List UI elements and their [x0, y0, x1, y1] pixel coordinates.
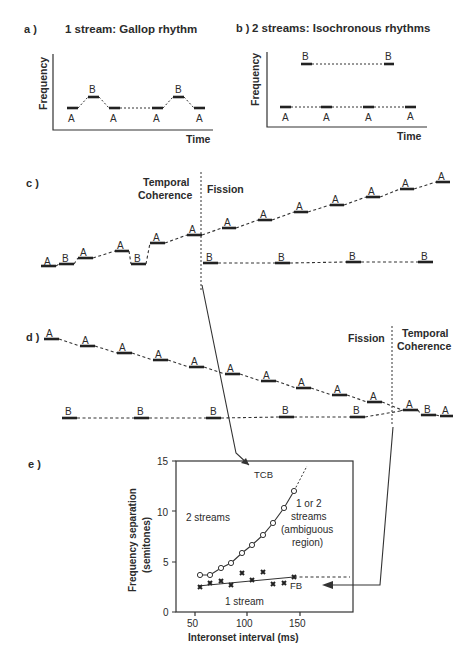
label-fb: FB: [290, 580, 302, 591]
tone-label: A: [189, 224, 196, 235]
xtick: 100: [236, 618, 253, 629]
label-ambiguous-4: region): [292, 537, 323, 548]
tone-label: A: [46, 328, 53, 339]
label-ambiguous-1: 1 or 2: [296, 498, 322, 509]
tone-label: A: [110, 113, 117, 124]
panel-a-letter: a ): [24, 23, 37, 35]
tone-label: B: [421, 251, 428, 262]
tone-label: B: [353, 405, 360, 416]
region-label-coherence: Coherence: [138, 189, 192, 201]
tone-label: A: [438, 171, 445, 182]
tone-label: A: [227, 363, 234, 374]
tcb-curve: [200, 491, 294, 575]
label-ambiguous-2: streams: [291, 511, 327, 522]
ytick: 15: [157, 456, 169, 467]
region-label-fission: Fission: [348, 332, 385, 344]
panel-c: c ) Temporal Coherence Fission A B A A B…: [26, 171, 450, 290]
panel-a-axes: [53, 54, 213, 130]
tone-label: A: [323, 112, 330, 123]
y-axis-label-2: (semitones): [141, 517, 152, 573]
tone-label: A: [44, 256, 51, 267]
tone-label: B: [302, 51, 309, 62]
tone-label: B: [349, 251, 356, 262]
panel-a: a ) 1 stream: Gallop rhythm Frequency Ti…: [24, 23, 213, 145]
tone-label: A: [365, 112, 372, 123]
tone-label: A: [196, 113, 203, 124]
ytick: 5: [163, 557, 169, 568]
tone-label: A: [332, 194, 339, 205]
panel-b-ylabel: Frequency: [249, 53, 261, 106]
tone-label: B: [89, 84, 96, 95]
tone-label: B: [62, 253, 69, 264]
tone-label: A: [263, 370, 270, 381]
region-label-fission: Fission: [207, 183, 244, 195]
tone-label: B: [137, 406, 144, 417]
tone-label: A: [282, 112, 289, 123]
tone-label: B: [206, 252, 213, 263]
tone-label: A: [406, 399, 413, 410]
tone-label: B: [210, 406, 217, 417]
tone-label: A: [334, 384, 341, 395]
label-two-streams: 2 streams: [186, 512, 230, 523]
tone-label: A: [296, 201, 303, 212]
panel-b-title: 2 streams: Isochronous rhythms: [252, 22, 430, 34]
panel-e: e ) 15 10 5 0 50 100 150 Interonset inte…: [28, 456, 353, 643]
tone-label: B: [282, 405, 289, 416]
tone-label: A: [82, 335, 89, 346]
tone-label: B: [175, 84, 182, 95]
panel-a-title: 1 stream: Gallop rhythm: [65, 23, 197, 35]
tone-label: A: [153, 113, 160, 124]
tone-label: A: [68, 113, 75, 124]
panel-a-xlabel: Time: [186, 133, 210, 145]
panel-b-axes: [267, 52, 427, 127]
x-axis-label: Interonset interval (ms): [188, 632, 299, 643]
panel-b: b ) 2 streams: Isochronous rhythms Frequ…: [236, 22, 430, 142]
tone-label: A: [119, 342, 126, 353]
label-ambiguous-3: (ambiguous: [281, 524, 333, 535]
tone-label: A: [155, 349, 162, 360]
tone-label: A: [402, 178, 409, 189]
fb-connector: [333, 427, 393, 585]
panel-c-letter: c ): [26, 177, 39, 189]
panel-b-xlabel: Time: [397, 130, 421, 142]
xtick: 50: [187, 618, 199, 629]
arrow-head-icon: [322, 581, 333, 589]
tone-label: A: [224, 217, 231, 228]
tone-label: A: [407, 111, 414, 122]
tone-label: B: [65, 406, 72, 417]
ytick: 10: [157, 507, 169, 518]
tone-label: B: [385, 51, 392, 62]
ytick: 0: [163, 607, 169, 618]
tone-label: A: [260, 209, 267, 220]
region-label-temporal: Temporal: [402, 327, 449, 339]
panel-d: d ) Fission Temporal Coherence A A A A A…: [26, 326, 453, 424]
panel-b-letter: b ): [236, 22, 250, 34]
tone-label: A: [117, 240, 124, 251]
figure-canvas: a ) 1 stream: Gallop rhythm Frequency Ti…: [0, 0, 475, 657]
region-label-temporal: Temporal: [143, 176, 190, 188]
tone-label: A: [298, 377, 305, 388]
panel-e-letter: e ): [28, 458, 41, 470]
y-axis-label-1: Frequency separation: [127, 488, 138, 592]
panel-a-ylabel: Frequency: [37, 57, 49, 110]
region-label-coherence: Coherence: [397, 340, 451, 352]
tcb-extrapolation: [294, 466, 307, 491]
xtick: 150: [289, 618, 306, 629]
tone-label: B: [278, 252, 285, 263]
tone-label: B: [424, 404, 431, 415]
panel-d-letter: d ): [26, 331, 40, 343]
label-one-stream: 1 stream: [225, 596, 264, 607]
tone-label: A: [370, 391, 377, 402]
tone-label: A: [191, 356, 198, 367]
tone-label: A: [80, 247, 87, 258]
tone-label: B: [134, 253, 141, 264]
label-tcb: TCB: [254, 469, 273, 480]
tone-label: A: [442, 405, 449, 416]
tone-label: A: [368, 186, 375, 197]
tone-label: A: [153, 232, 160, 243]
